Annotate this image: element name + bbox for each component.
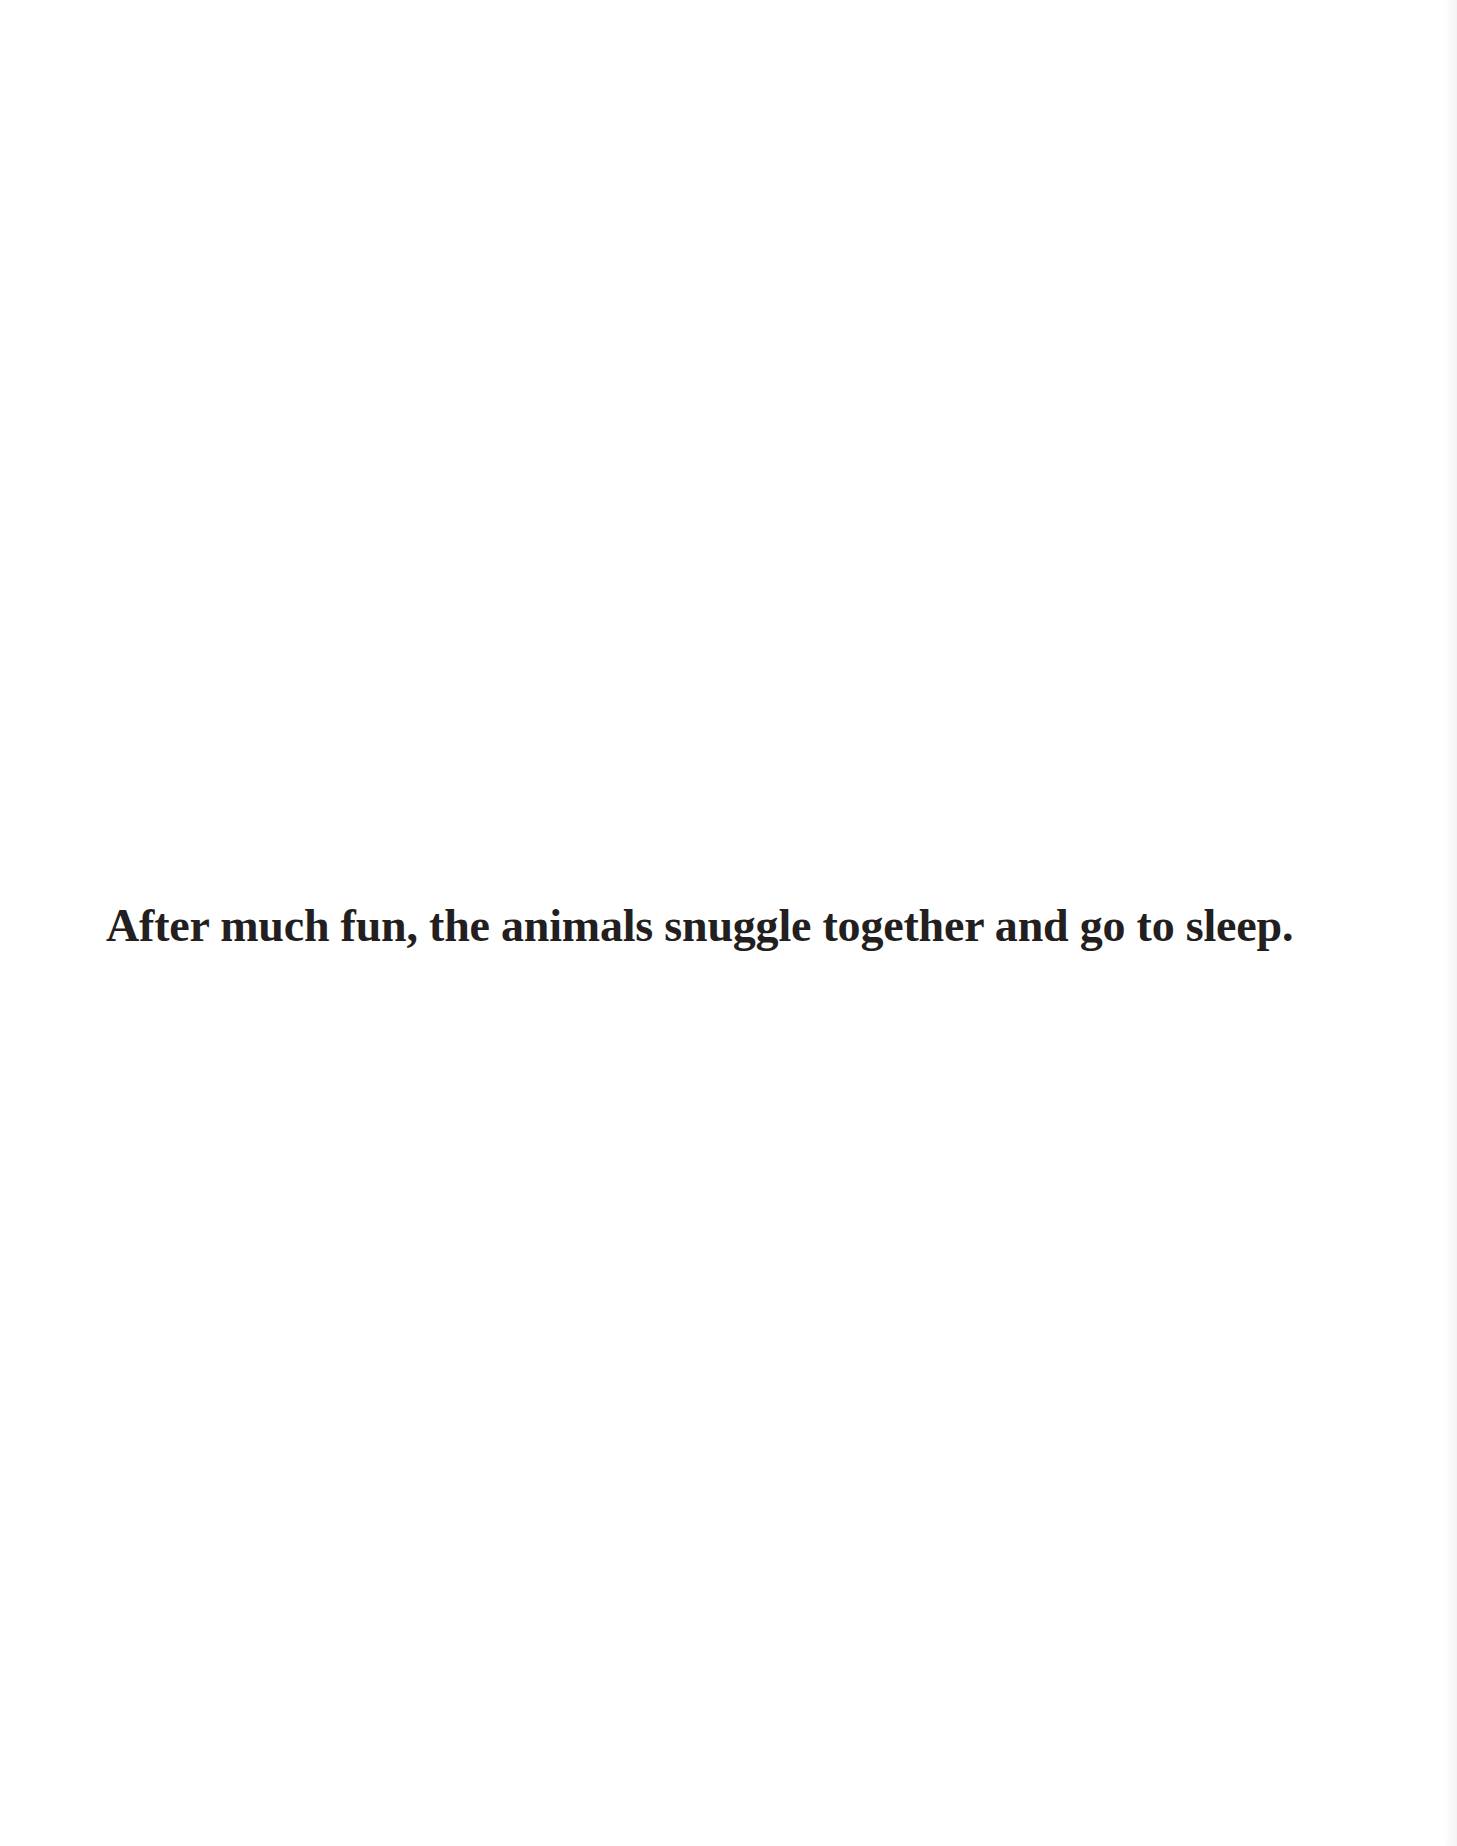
page-edge-shadow bbox=[1443, 0, 1457, 1846]
page-caption: After much fun, the animals snuggle toge… bbox=[106, 896, 1406, 956]
book-page: After much fun, the animals snuggle toge… bbox=[0, 0, 1457, 1846]
